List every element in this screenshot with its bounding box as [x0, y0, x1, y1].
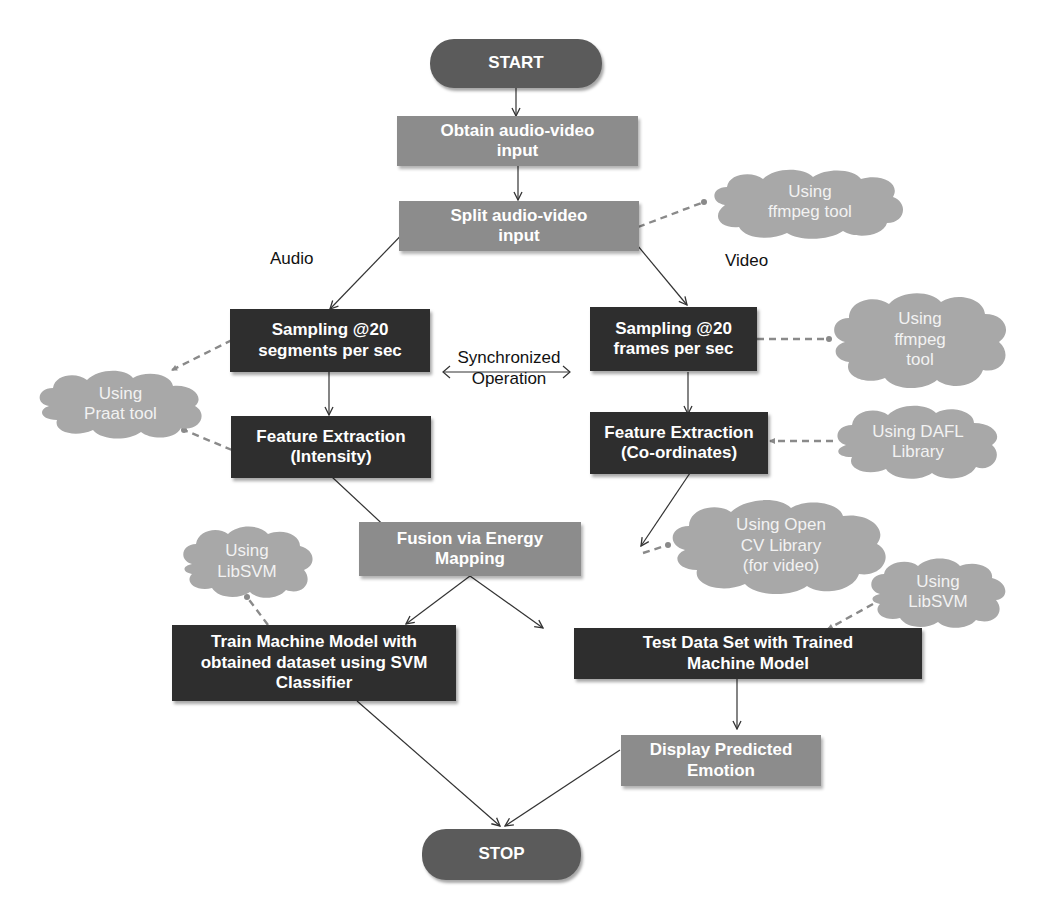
cloud-libsvm-train-text: Using LibSVM — [178, 524, 316, 599]
test-model-box: Test Data Set with Trained Machine Model — [574, 628, 922, 679]
test-model-label: Test Data Set with Trained Machine Model — [643, 633, 853, 674]
dash-audio-sampling-praat — [172, 340, 232, 370]
audio-feature-box: Feature Extraction (Intensity) — [231, 416, 431, 478]
stop-terminal: STOP — [422, 829, 581, 880]
cloud-dafl-text: Using DAFL Library — [832, 403, 1004, 481]
cloud-ffmpeg-split: Using ffmpeg tool — [705, 165, 915, 239]
stop-label: STOP — [479, 844, 525, 864]
start-terminal: START — [430, 39, 602, 88]
fusion-label: Fusion via Energy Mapping — [397, 529, 543, 570]
split-input-box: Split audio-video input — [399, 201, 639, 251]
cloud-praat-text: Using Praat tool — [33, 368, 208, 440]
video-branch-label: Video — [725, 250, 768, 271]
train-model-box: Train Machine Model with obtained datase… — [172, 625, 456, 701]
audio-branch-label: Audio — [270, 248, 313, 269]
video-sampling-box: Sampling @20 frames per sec — [590, 307, 757, 371]
cloud-dafl: Using DAFL Library — [832, 403, 1004, 481]
cloud-opencv-text: Using Open CV Library (for video) — [667, 496, 895, 596]
arrow-fusion-train — [406, 576, 470, 624]
arrow-display-stop — [505, 750, 620, 826]
display-emotion-label: Display Predicted Emotion — [650, 740, 793, 781]
fusion-box: Fusion via Energy Mapping — [359, 522, 581, 576]
cloud-ffmpeg-video-text: Using ffmpeg tool — [827, 290, 1013, 390]
dash-train-libsvm — [247, 597, 268, 625]
cloud-ffmpeg-split-text: Using ffmpeg tool — [705, 165, 915, 239]
cloud-praat: Using Praat tool — [33, 368, 208, 440]
dash-fusion-opencv — [643, 545, 668, 553]
cloud-opencv: Using Open CV Library (for video) — [667, 496, 895, 596]
flowchart-canvas: START STOP Obtain audio-video input Spli… — [0, 0, 1061, 901]
dash-split-ffmpeg — [638, 202, 704, 227]
video-sampling-label: Sampling @20 frames per sec — [613, 319, 733, 360]
arrow-fusion-test — [470, 576, 543, 628]
display-emotion-box: Display Predicted Emotion — [621, 735, 821, 786]
split-input-label: Split audio-video input — [451, 206, 588, 247]
cloud-ffmpeg-video: Using ffmpeg tool — [827, 290, 1013, 390]
audio-sampling-box: Sampling @20 segments per sec — [230, 309, 430, 372]
cloud-libsvm-test-text: Using LibSVM — [866, 556, 1010, 628]
cloud-libsvm-train: Using LibSVM — [178, 524, 316, 599]
train-model-label: Train Machine Model with obtained datase… — [201, 632, 428, 693]
synchronized-operation-label: Synchronized Operation — [446, 347, 572, 390]
obtain-input-label: Obtain audio-video input — [441, 121, 595, 162]
video-feature-label: Feature Extraction (Co-ordinates) — [604, 423, 753, 464]
obtain-input-box: Obtain audio-video input — [397, 116, 638, 166]
audio-sampling-label: Sampling @20 segments per sec — [258, 320, 402, 361]
video-feature-box: Feature Extraction (Co-ordinates) — [590, 412, 768, 474]
cloud-libsvm-test: Using LibSVM — [866, 556, 1010, 628]
start-label: START — [488, 53, 543, 73]
audio-feature-label: Feature Extraction (Intensity) — [256, 427, 405, 468]
arrow-train-stop — [357, 701, 500, 826]
